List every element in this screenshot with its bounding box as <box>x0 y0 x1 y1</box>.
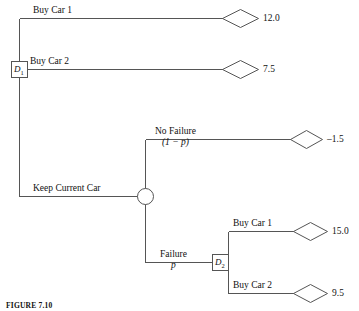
failure-probability: p <box>160 260 187 271</box>
terminal-node-9-5 <box>294 285 328 303</box>
chance-node <box>138 189 154 205</box>
decision-node-d2-label: D2 <box>215 257 225 269</box>
no-failure-text: No Failure <box>155 126 196 137</box>
terminal-node-12 <box>223 10 259 28</box>
decision-tree-diagram: D1 D2 Buy Car 1 Buy Car 2 Keep Current C… <box>0 0 359 311</box>
figure-caption: FIGURE 7.10 <box>6 301 52 310</box>
decision-node-d1-label: D1 <box>14 64 24 76</box>
payoff-value-9-5: 9.5 <box>332 288 344 298</box>
terminal-node-minus-1-5 <box>291 131 323 149</box>
payoff-value-12: 12.0 <box>263 13 280 23</box>
branch-label-failure: Failure p <box>160 249 187 271</box>
branch-label-keep-current-car: Keep Current Car <box>33 183 101 194</box>
branch-label-buy-car-1-top: Buy Car 1 <box>33 5 72 16</box>
branch-label-buy-car-2-top: Buy Car 2 <box>30 56 69 67</box>
terminal-node-7-5 <box>223 61 259 79</box>
branch-label-no-failure: No Failure (1 − p) <box>155 126 196 148</box>
terminal-node-15 <box>294 223 328 241</box>
branch-label-buy-car-2-bottom: Buy Car 2 <box>233 280 272 291</box>
payoff-value-7-5: 7.5 <box>263 64 275 74</box>
no-failure-probability: (1 − p) <box>155 137 196 148</box>
payoff-value-minus-1-5: –1.5 <box>327 134 344 144</box>
payoff-value-15: 15.0 <box>332 226 349 236</box>
failure-text: Failure <box>160 249 187 260</box>
branch-label-buy-car-1-bottom: Buy Car 1 <box>233 218 272 229</box>
